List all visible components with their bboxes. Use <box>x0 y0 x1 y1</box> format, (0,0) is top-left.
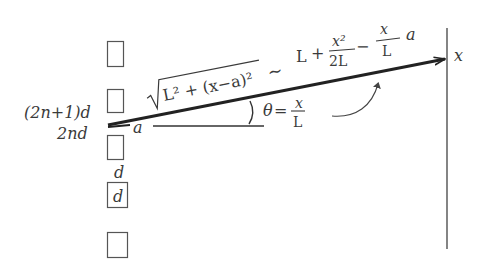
diagram-canvas: (2n+1)d 2nd d d a x L² + (x−a)² ∼ L + x²… <box>0 0 486 273</box>
slit-box-2 <box>108 90 124 113</box>
label-odd-slit: (2n+1)d <box>24 103 91 122</box>
label-spacing-d: d <box>114 163 124 182</box>
frac1-bar <box>329 49 355 51</box>
minus-sign: − <box>356 37 369 56</box>
slit-box-1 <box>108 42 124 67</box>
angle-arc <box>249 101 253 124</box>
approx-sign: ∼ <box>265 59 284 82</box>
slit-box-3 <box>108 136 124 160</box>
curved-arrow <box>332 84 378 116</box>
term-L: L <box>296 47 307 66</box>
angle-denominator: L <box>293 114 302 130</box>
theta-symbol: θ <box>263 101 273 120</box>
frac2-numerator: x <box>380 21 388 37</box>
expansion-terms: L + x² 2L − x L a <box>296 21 416 69</box>
label-box-d: d <box>113 187 123 206</box>
trailing-a: a <box>406 25 416 44</box>
label-even-slit: 2nd <box>56 124 88 143</box>
frac1-numerator: x² <box>332 33 346 49</box>
frac1-denominator: 2L <box>329 53 347 69</box>
equals-sign: = <box>274 101 287 120</box>
grating <box>108 42 128 258</box>
frac2-bar <box>376 38 400 41</box>
angle-formula: θ = x L <box>263 95 305 130</box>
slit-box-5 <box>108 233 128 258</box>
angle-numerator: x <box>295 95 303 111</box>
frac2-denominator: L <box>382 43 391 59</box>
plus-sign: + <box>311 44 324 63</box>
label-screen-x: x <box>454 46 463 65</box>
